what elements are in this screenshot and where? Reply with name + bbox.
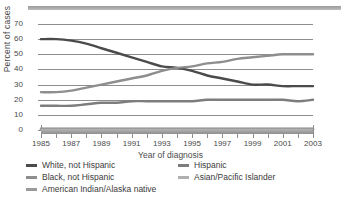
x-tick-2000 <box>268 134 269 138</box>
x-tick-1995 <box>192 134 193 138</box>
x-tick-label-1995: 1995 <box>183 139 201 148</box>
y-tick-label-10: 10 <box>0 111 23 119</box>
x-tick-label-1997: 1997 <box>213 139 231 148</box>
legend-item-asian-pacific-islander[interactable]: Asian/Pacific Islander <box>178 172 275 182</box>
chart-legend: White, not HispanicHispanicBlack, not Hi… <box>26 160 326 196</box>
series-line-white-not-hispanic <box>41 39 313 86</box>
y-tick-label-50: 50 <box>0 50 23 58</box>
x-tick-label-1991: 1991 <box>123 139 141 148</box>
series-line-black-not-hispanic <box>41 54 313 92</box>
legend-label: American Indian/Alaska native <box>42 184 156 194</box>
x-tick-1998 <box>237 134 238 138</box>
x-tick-1986 <box>56 134 57 138</box>
x-tick-1993 <box>162 134 163 138</box>
x-tick-1992 <box>147 134 148 138</box>
y-tick-label-0: 0 <box>0 126 23 134</box>
legend-row: American Indian/Alaska native <box>26 184 326 196</box>
x-tick-2003 <box>313 134 314 138</box>
legend-label: White, not Hispanic <box>42 160 115 170</box>
legend-item-white-not-hispanic[interactable]: White, not Hispanic <box>26 160 178 170</box>
x-tick-1997 <box>222 134 223 138</box>
y-tick-label-70: 70 <box>0 20 23 28</box>
legend-swatch-icon <box>178 176 189 179</box>
series-lines <box>41 24 313 130</box>
legend-swatch-icon <box>178 164 189 167</box>
legend-swatch-icon <box>26 164 37 167</box>
x-tick-label-1985: 1985 <box>32 139 50 148</box>
x-tick-2001 <box>283 134 284 138</box>
legend-row: White, not HispanicHispanic <box>26 160 326 172</box>
legend-item-black-not-hispanic[interactable]: Black, not Hispanic <box>26 172 178 182</box>
legend-label: Black, not Hispanic <box>42 172 114 182</box>
x-tick-1999 <box>253 134 254 138</box>
x-tick-label-1987: 1987 <box>62 139 80 148</box>
x-tick-1985 <box>41 134 42 138</box>
legend-row: Black, not HispanicAsian/Pacific Islande… <box>26 172 326 184</box>
legend-swatch-icon <box>26 188 37 191</box>
x-tick-1987 <box>71 134 72 138</box>
legend-swatch-icon <box>26 176 37 179</box>
x-axis-right-cap <box>313 125 314 134</box>
y-tick-label-30: 30 <box>0 81 23 89</box>
legend-item-american-indian-alaska-native[interactable]: American Indian/Alaska native <box>26 184 178 194</box>
x-axis-title: Year of diagnosis <box>0 150 341 160</box>
x-tick-label-2003: 2003 <box>304 139 322 148</box>
y-tick-label-60: 60 <box>0 35 23 43</box>
legend-label: Asian/Pacific Islander <box>194 172 275 182</box>
x-tick-1996 <box>207 134 208 138</box>
x-tick-label-1993: 1993 <box>153 139 171 148</box>
x-tick-2002 <box>298 134 299 138</box>
x-tick-1994 <box>177 134 178 138</box>
chart-figure: Percent of cases 010203040506070 1985198… <box>0 0 341 212</box>
series-line-hispanic <box>41 100 313 106</box>
legend-label: Hispanic <box>194 160 227 170</box>
x-tick-label-1989: 1989 <box>93 139 111 148</box>
x-tick-1990 <box>117 134 118 138</box>
x-tick-label-2001: 2001 <box>274 139 292 148</box>
y-tick-label-20: 20 <box>0 96 23 104</box>
x-tick-label-1999: 1999 <box>244 139 262 148</box>
legend-item-hispanic[interactable]: Hispanic <box>178 160 227 170</box>
x-tick-1989 <box>101 134 102 138</box>
y-tick-label-40: 40 <box>0 65 23 73</box>
x-tick-1988 <box>86 134 87 138</box>
x-tick-1991 <box>132 134 133 138</box>
